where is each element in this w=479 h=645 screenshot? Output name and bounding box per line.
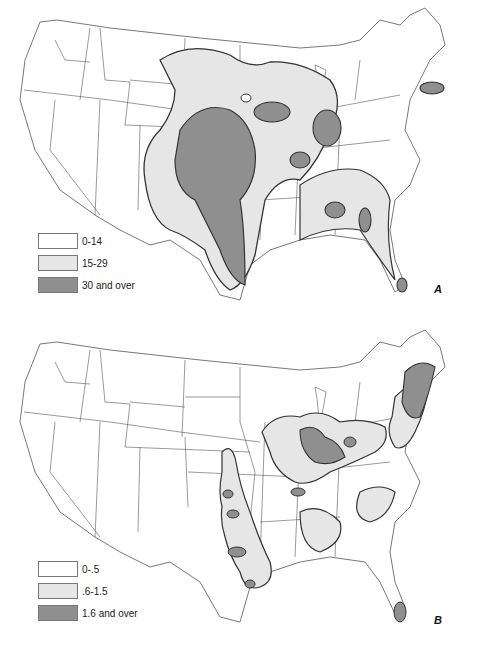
panel-letter-a: A bbox=[434, 283, 442, 295]
low-hole-1 bbox=[241, 94, 251, 102]
legend-label: 1.6 and over bbox=[82, 608, 138, 619]
high-blob-2 bbox=[227, 510, 239, 518]
legend-swatch-mid bbox=[38, 255, 78, 271]
high-blob-1 bbox=[254, 102, 290, 122]
legend-label: 30 and over bbox=[82, 280, 135, 291]
high-blob-4 bbox=[325, 202, 345, 218]
map-panel-a: 0-14 15-29 30 and over A bbox=[0, 0, 479, 320]
legend-row: .6-1.5 bbox=[38, 580, 138, 602]
high-blob-2 bbox=[313, 110, 341, 146]
legend-label: 0-14 bbox=[82, 236, 102, 247]
legend-row: 0-.5 bbox=[38, 558, 138, 580]
legend-swatch-high bbox=[38, 605, 78, 621]
mid-region-se bbox=[300, 169, 395, 280]
high-blob-5 bbox=[291, 488, 305, 496]
high-blob-6 bbox=[397, 278, 407, 292]
high-blob-6 bbox=[344, 437, 356, 447]
legend-row: 30 and over bbox=[38, 274, 135, 296]
legend-label: .6-1.5 bbox=[82, 586, 108, 597]
high-blob-ne bbox=[420, 82, 444, 94]
high-blob-1 bbox=[223, 490, 233, 498]
high-blob-7 bbox=[394, 602, 406, 622]
high-region-ne bbox=[402, 363, 435, 418]
legend-a: 0-14 15-29 30 and over bbox=[38, 230, 135, 296]
legend-label: 0-.5 bbox=[82, 564, 99, 575]
map-panel-b: 0-.5 .6-1.5 1.6 and over B bbox=[0, 322, 479, 645]
legend-row: 0-14 bbox=[38, 230, 135, 252]
legend-swatch-mid bbox=[38, 583, 78, 599]
legend-label: 15-29 bbox=[82, 258, 108, 269]
legend-swatch-high bbox=[38, 277, 78, 293]
legend-b: 0-.5 .6-1.5 1.6 and over bbox=[38, 558, 138, 624]
legend-row: 1.6 and over bbox=[38, 602, 138, 624]
high-blob-3 bbox=[228, 547, 246, 557]
legend-swatch-low bbox=[38, 233, 78, 249]
panel-letter-b: B bbox=[434, 614, 442, 626]
high-blob-4 bbox=[245, 580, 255, 588]
high-blob-5 bbox=[359, 208, 371, 232]
high-blob-3 bbox=[290, 152, 310, 168]
legend-row: 15-29 bbox=[38, 252, 135, 274]
legend-swatch-low bbox=[38, 561, 78, 577]
